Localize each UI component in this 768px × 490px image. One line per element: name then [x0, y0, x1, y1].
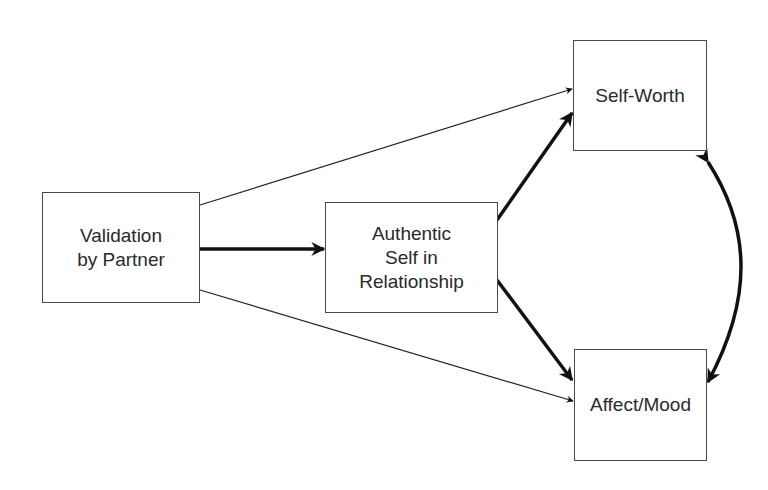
path-diagram: Validation by Partner Authentic Self in … [0, 0, 768, 490]
edge-selfworth-affect-correlation [708, 162, 741, 382]
node-self-worth: Self-Worth [573, 40, 707, 151]
edge-authentic-selfworth [497, 113, 572, 220]
node-affect-mood: Affect/Mood [574, 349, 707, 461]
node-label: Affect/Mood [590, 393, 691, 417]
edge-validation-selfworth [200, 89, 572, 205]
node-label: Validation by Partner [77, 224, 165, 272]
node-authentic-self: Authentic Self in Relationship [325, 202, 498, 313]
node-validation-by-partner: Validation by Partner [42, 192, 200, 303]
edge-authentic-affect [497, 280, 572, 380]
node-label: Authentic Self in Relationship [359, 222, 464, 294]
node-label: Self-Worth [595, 84, 684, 108]
